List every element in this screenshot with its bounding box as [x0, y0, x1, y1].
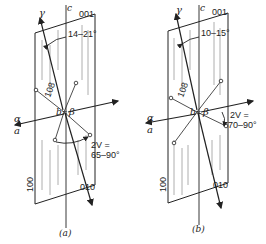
- plane-001-label: 001: [212, 7, 227, 17]
- optic-angle-label-1: 2V =: [230, 110, 249, 120]
- plane-100-label: 100: [158, 177, 168, 192]
- plane-108-label: 108: [42, 81, 57, 99]
- beta-axis: [68, 101, 118, 112]
- panel-b: γ c 001 10–15° 108 α a b = β 2V = 70–90°…: [146, 3, 257, 234]
- beta-label: β: [68, 106, 75, 117]
- optic-axis-point: [219, 79, 223, 83]
- extinction-angle-label: 14–21°: [68, 29, 97, 39]
- optic-axis-point: [169, 96, 173, 100]
- optic-axis-point: [172, 141, 176, 145]
- gamma-label: γ: [39, 7, 45, 18]
- c-label: c: [67, 3, 72, 13]
- c-label: c: [200, 3, 205, 13]
- plane-001-label: 001: [79, 9, 94, 19]
- face-010-label: 010: [80, 182, 95, 192]
- alpha-label: α: [147, 112, 154, 123]
- plane-108-label: 108: [175, 81, 190, 99]
- extinction-angle-arc: [48, 37, 66, 45]
- optic-angle-label-1: 2V =: [91, 140, 110, 150]
- optic-angle-label-2: 70–90°: [228, 120, 257, 130]
- caption-a: (a): [59, 228, 72, 238]
- crystal-optics-diagram: γ c 001 14–21° 108 α a b = β 2V = 65–90°…: [0, 0, 266, 244]
- optic-axis-point: [34, 88, 38, 92]
- axis-010: [198, 113, 221, 208]
- beta-label: β: [202, 106, 209, 117]
- face-010-label: 010: [213, 180, 228, 190]
- optic-axis-point: [88, 133, 92, 137]
- alpha-label: α: [14, 113, 21, 124]
- plane-100-label: 100: [25, 177, 35, 192]
- extinction-angle-label: 10–15°: [201, 28, 230, 38]
- equals-sign: =: [62, 107, 67, 117]
- gamma-label: γ: [176, 4, 182, 15]
- optic-angle-label-2: 65–90°: [91, 150, 120, 160]
- optic-axis-point: [53, 138, 57, 142]
- caption-b: (b): [192, 224, 205, 234]
- extinction-angle-arc: [182, 37, 199, 44]
- equals-sign: =: [196, 107, 201, 117]
- optic-axis-point: [74, 81, 78, 85]
- panel-a: γ c 001 14–21° 108 α a b = β 2V = 65–90°…: [14, 3, 120, 238]
- a-label: a: [147, 124, 153, 135]
- a-label: a: [14, 125, 20, 136]
